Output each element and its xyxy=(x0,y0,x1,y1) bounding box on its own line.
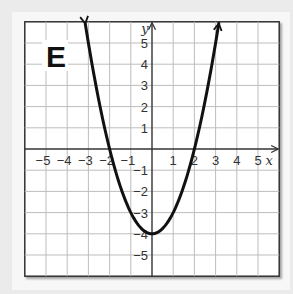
y-tick-label: 1 xyxy=(141,121,148,136)
x-axis-label: x xyxy=(266,153,274,168)
parabola-graph: −5−4−3−2−11234554321−1−2−3−4−5xy E xyxy=(0,0,293,294)
y-tick-label: 3 xyxy=(141,78,148,93)
x-tick-label: 5 xyxy=(254,153,261,168)
y-axis-label: y xyxy=(140,21,149,36)
x-tick-label: 1 xyxy=(170,153,177,168)
y-tick-label: 5 xyxy=(141,36,148,51)
x-tick-label: −5 xyxy=(36,153,51,168)
x-tick-label: −4 xyxy=(57,153,72,168)
x-tick-label: 4 xyxy=(233,153,240,168)
y-tick-label: −5 xyxy=(133,248,148,263)
x-tick-label: −3 xyxy=(78,153,93,168)
y-tick-label: 2 xyxy=(141,100,148,115)
y-tick-label: −1 xyxy=(133,163,148,178)
panel-label-group: E xyxy=(42,40,68,73)
x-tick-label: 3 xyxy=(212,153,219,168)
y-tick-label: −2 xyxy=(133,184,148,199)
y-tick-label: 4 xyxy=(141,57,148,72)
panel-label: E xyxy=(46,40,66,73)
